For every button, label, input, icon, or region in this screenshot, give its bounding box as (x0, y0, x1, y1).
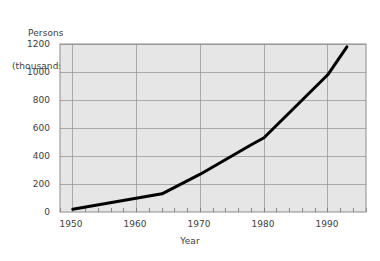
line-chart: Persons (thousands) 1200 1000 800 600 40… (0, 0, 380, 261)
plot-area (0, 0, 380, 261)
